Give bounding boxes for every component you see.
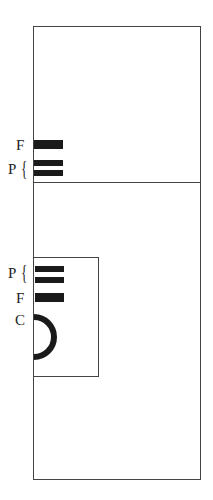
bar-p1-inner: [35, 266, 64, 272]
label-f-inner: F: [16, 291, 24, 306]
bar-p2-top: [34, 170, 63, 176]
label-f-top: F: [16, 138, 24, 153]
label-p-inner: P: [8, 266, 16, 281]
brace-p-inner: {: [21, 261, 27, 283]
outer-box: [33, 26, 201, 480]
bar-f-top: [34, 140, 63, 149]
bar-p1-top: [34, 160, 63, 166]
section-divider: [33, 182, 201, 183]
brace-p-top: {: [21, 157, 27, 179]
c-half-ring-icon: [34, 313, 64, 361]
label-c-inner: C: [15, 313, 25, 328]
label-p-top: P: [8, 162, 16, 177]
bar-f-inner: [35, 293, 64, 302]
bar-p2-inner: [35, 277, 64, 283]
